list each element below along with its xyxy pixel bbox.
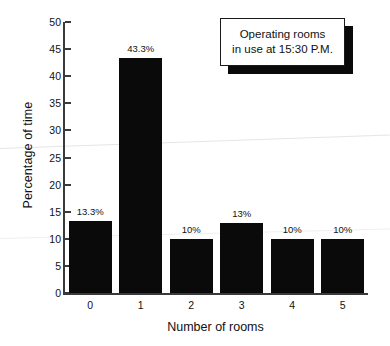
bar-value-label: 10%	[164, 225, 218, 235]
y-axis-tick-label: 5	[31, 261, 61, 271]
y-axis-tick-label: 25	[31, 153, 61, 163]
y-axis-tick-label: 10	[31, 234, 61, 244]
y-axis-tick	[65, 48, 71, 50]
y-axis-tick-label: 15	[31, 207, 61, 217]
x-axis-tick-label: 3	[229, 299, 255, 311]
bar-value-label: 10%	[265, 225, 319, 235]
y-axis-tick-label: 30	[31, 125, 61, 135]
bar	[321, 239, 364, 293]
y-axis-tick-label: 35	[31, 98, 61, 108]
legend-line-2: in use at 15:30 P.M.	[232, 42, 333, 57]
bar	[271, 239, 314, 293]
x-axis-tick-label: 2	[178, 299, 204, 311]
legend-line-1: Operating rooms	[240, 27, 326, 42]
y-axis-tick-label: 20	[31, 180, 61, 190]
y-axis-tick	[65, 75, 71, 77]
bar	[220, 223, 263, 293]
bar-value-label: 10%	[316, 225, 370, 235]
y-axis-tick	[65, 21, 71, 23]
bar-value-label: 13.3%	[63, 207, 117, 217]
y-axis-tick	[65, 157, 71, 159]
x-axis-tick-label: 0	[77, 299, 103, 311]
bar-value-label: 13%	[215, 209, 269, 219]
scan-artifact-line	[0, 134, 390, 149]
y-axis-tick-label: 40	[31, 71, 61, 81]
y-axis-tick	[65, 102, 71, 104]
bar	[170, 239, 213, 293]
x-axis-title: Number of rooms	[63, 320, 368, 334]
y-axis-tick-label: 0	[31, 288, 61, 298]
bar-chart: Percentage of time 05101520253035404550 …	[0, 0, 390, 346]
x-axis-tick-label: 5	[330, 299, 356, 311]
y-axis-tick-label: 45	[31, 44, 61, 54]
x-axis-tick-label: 1	[128, 299, 154, 311]
x-axis-line	[63, 293, 368, 295]
y-axis-tick	[65, 184, 71, 186]
y-axis-tick	[65, 129, 71, 131]
bar	[69, 221, 112, 293]
bar	[119, 58, 162, 293]
legend-box: Operating rooms in use at 15:30 P.M.	[220, 18, 345, 66]
bar-value-label: 43.3%	[114, 44, 168, 54]
y-axis-tick-label: 50	[31, 17, 61, 27]
x-axis-tick-label: 4	[279, 299, 305, 311]
